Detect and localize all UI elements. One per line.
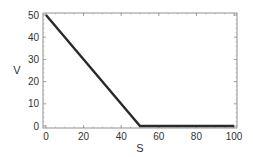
series-line — [46, 15, 234, 126]
y-tick-label: 0 — [33, 121, 39, 132]
x-tick-label: 60 — [153, 131, 165, 142]
x-tick-label: 100 — [226, 131, 243, 142]
x-tick-label: 40 — [116, 131, 128, 142]
x-axis-label: S — [136, 142, 143, 154]
y-axis-label: V — [13, 64, 21, 76]
y-tick-label: 30 — [28, 54, 40, 65]
plot-border — [43, 13, 237, 128]
data-series — [46, 15, 234, 126]
x-tick-label: 0 — [43, 131, 49, 142]
y-tick-label: 10 — [28, 98, 40, 109]
plot-frame — [43, 13, 237, 128]
x-tick-label: 80 — [191, 131, 203, 142]
line-chart: 02040608010001020304050 S V — [0, 0, 253, 157]
x-tick-label: 20 — [78, 131, 90, 142]
y-tick-label: 50 — [28, 10, 40, 21]
y-tick-label: 40 — [28, 32, 40, 43]
y-tick-label: 20 — [28, 76, 40, 87]
